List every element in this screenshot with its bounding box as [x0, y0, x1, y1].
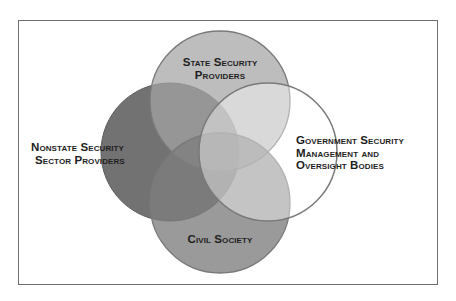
label-government-line-1: Government Security: [296, 134, 404, 147]
label-government-line-3: Oversight Bodies: [296, 159, 404, 172]
label-state-line-1: State Security: [160, 56, 280, 69]
label-government-security-management-oversight: Government Security Management and Overs…: [296, 134, 404, 172]
label-civil-society: Civil Society: [160, 233, 280, 246]
label-civil-line-1: Civil Society: [160, 233, 280, 246]
label-state-security-providers: State Security Providers: [160, 56, 280, 81]
label-state-line-2: Providers: [160, 69, 280, 82]
label-nonstate-security-sector-providers: Nonstate Security Sector Providers: [31, 141, 125, 166]
label-government-line-2: Management and: [296, 147, 404, 160]
label-nonstate-line-1: Nonstate Security: [31, 141, 125, 154]
label-nonstate-line-2: Sector Providers: [31, 154, 125, 167]
